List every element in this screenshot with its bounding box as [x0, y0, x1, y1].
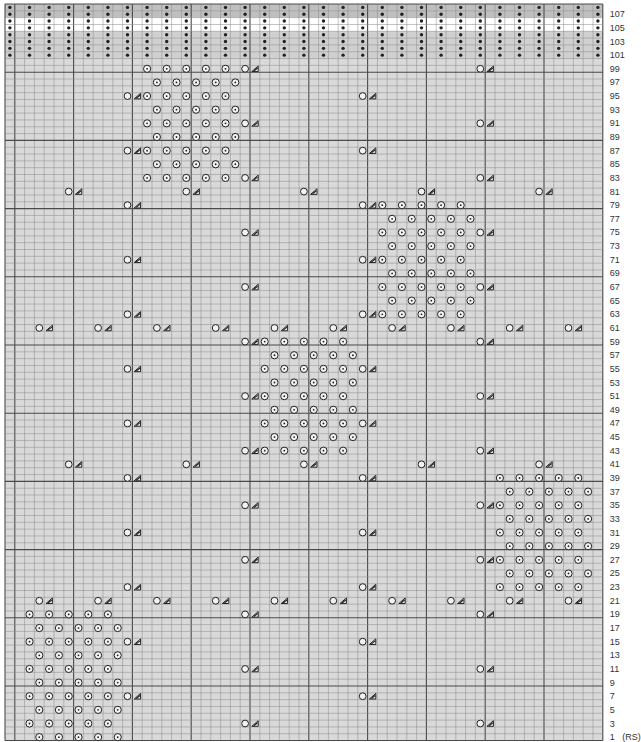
purl-dot-icon	[106, 40, 109, 43]
purl-dot-icon	[87, 33, 90, 36]
bobble-center-icon	[430, 300, 432, 302]
row-label: 41	[610, 459, 620, 469]
purl-dot-icon	[498, 33, 501, 36]
bobble-center-icon	[156, 136, 158, 138]
bobble-center-icon	[293, 436, 295, 438]
yarn-over-icon	[242, 120, 249, 127]
bobble-center-icon	[509, 518, 511, 520]
purl-dot-icon	[420, 13, 423, 16]
yarn-over-icon	[242, 666, 249, 673]
purl-dot-icon	[479, 19, 482, 22]
purl-dot-icon	[459, 26, 462, 29]
purl-dot-icon	[47, 47, 50, 50]
bobble-center-icon	[225, 122, 227, 124]
yarn-over-icon	[124, 202, 131, 209]
purl-dot-icon	[87, 53, 90, 56]
bobble-center-icon	[107, 668, 109, 670]
purl-dot-icon	[185, 6, 188, 9]
purl-dot-icon	[557, 26, 560, 29]
purl-dot-icon	[518, 40, 521, 43]
bobble-center-icon	[117, 709, 119, 711]
bobble-center-icon	[146, 150, 148, 152]
purl-dot-icon	[479, 26, 482, 29]
purl-dot-icon	[361, 19, 364, 22]
yarn-over-icon	[359, 311, 366, 318]
purl-dot-icon	[145, 19, 148, 22]
purl-dot-icon	[322, 6, 325, 9]
purl-dot-icon	[283, 26, 286, 29]
bobble-center-icon	[274, 382, 276, 384]
yarn-over-icon	[95, 597, 102, 604]
bobble-center-icon	[411, 300, 413, 302]
purl-dot-icon	[243, 19, 246, 22]
yarn-over-icon	[65, 461, 72, 468]
purl-dot-icon	[185, 40, 188, 43]
bobble-center-icon	[48, 723, 50, 725]
bobble-center-icon	[323, 368, 325, 370]
purl-dot-icon	[381, 19, 384, 22]
purl-dot-icon	[204, 33, 207, 36]
purl-dot-icon	[439, 13, 442, 16]
purl-dot-icon	[243, 13, 246, 16]
purl-dot-icon	[361, 33, 364, 36]
row-label: 75	[610, 227, 620, 237]
bobble-center-icon	[68, 641, 70, 643]
purl-dot-icon	[557, 6, 560, 9]
bobble-center-icon	[283, 368, 285, 370]
row-label: 25	[610, 568, 620, 578]
purl-dot-icon	[204, 6, 207, 9]
purl-dot-icon	[224, 47, 227, 50]
yarn-over-icon	[242, 502, 249, 509]
row-label: 93	[610, 105, 620, 115]
bobble-center-icon	[264, 395, 266, 397]
bobble-center-icon	[587, 545, 589, 547]
yarn-over-icon	[242, 284, 249, 291]
purl-dot-icon	[459, 6, 462, 9]
purl-dot-icon	[87, 40, 90, 43]
purl-dot-icon	[243, 47, 246, 50]
bobble-center-icon	[215, 163, 217, 165]
bobble-center-icon	[587, 518, 589, 520]
bobble-center-icon	[332, 354, 334, 356]
bobble-center-icon	[558, 559, 560, 561]
yarn-over-icon	[536, 188, 543, 195]
yarn-over-icon	[330, 325, 337, 332]
bobble-center-icon	[156, 82, 158, 84]
bobble-center-icon	[528, 491, 530, 493]
bobble-center-icon	[264, 450, 266, 452]
bobble-center-icon	[283, 423, 285, 425]
purl-dot-icon	[459, 40, 462, 43]
purl-dot-icon	[224, 13, 227, 16]
purl-dot-icon	[145, 33, 148, 36]
bobble-center-icon	[391, 300, 393, 302]
bobble-center-icon	[185, 122, 187, 124]
bobble-center-icon	[323, 423, 325, 425]
purl-dot-icon	[224, 26, 227, 29]
bobble-center-icon	[313, 354, 315, 356]
purl-dot-icon	[577, 13, 580, 16]
purl-dot-icon	[145, 26, 148, 29]
yarn-over-icon	[359, 638, 366, 645]
bobble-center-icon	[519, 477, 521, 479]
bobble-center-icon	[548, 491, 550, 493]
bobble-center-icon	[342, 423, 344, 425]
row-label: 43	[610, 446, 620, 456]
yarn-over-icon	[506, 597, 513, 604]
purl-dot-icon	[479, 6, 482, 9]
purl-dot-icon	[498, 19, 501, 22]
purl-dot-icon	[381, 26, 384, 29]
purl-dot-icon	[420, 33, 423, 36]
purl-dot-icon	[28, 40, 31, 43]
purl-dot-icon	[263, 13, 266, 16]
bobble-center-icon	[225, 150, 227, 152]
row-label: 21	[610, 596, 620, 606]
yarn-over-icon	[124, 365, 131, 372]
bobble-center-icon	[381, 286, 383, 288]
purl-dot-icon	[518, 26, 521, 29]
bobble-center-icon	[195, 82, 197, 84]
purl-dot-icon	[420, 26, 423, 29]
purl-dot-icon	[596, 19, 599, 22]
purl-dot-icon	[145, 53, 148, 56]
bobble-center-icon	[401, 286, 403, 288]
bobble-center-icon	[401, 259, 403, 261]
